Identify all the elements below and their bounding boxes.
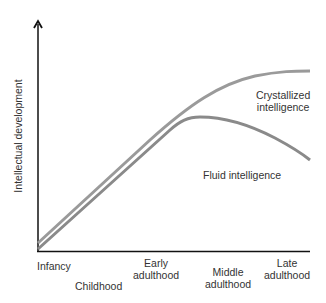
x-label-middle-line2: adulthood <box>205 278 251 290</box>
x-label-middle-line1: Middle <box>205 266 251 278</box>
crystallized-label-line1: Crystallized <box>256 89 310 101</box>
fluid-label: Fluid intelligence <box>203 169 281 181</box>
x-label-early-line1: Early <box>133 257 179 269</box>
crystallized-label-line2: intelligence <box>256 101 310 113</box>
fluid-intelligence-line <box>38 117 310 249</box>
x-label-late-adulthood: Late adulthood <box>264 257 310 281</box>
crystallized-label: Crystallized intelligence <box>256 89 310 113</box>
x-label-early-adulthood: Early adulthood <box>133 257 179 281</box>
x-label-late-line1: Late <box>264 257 310 269</box>
x-label-childhood: Childhood <box>75 280 122 292</box>
x-label-early-line2: adulthood <box>133 269 179 281</box>
x-label-middle-adulthood: Middle adulthood <box>205 266 251 290</box>
x-label-infancy: Infancy <box>37 260 71 272</box>
x-label-late-line2: adulthood <box>264 269 310 281</box>
y-axis-label: Intellectual development <box>12 71 24 201</box>
